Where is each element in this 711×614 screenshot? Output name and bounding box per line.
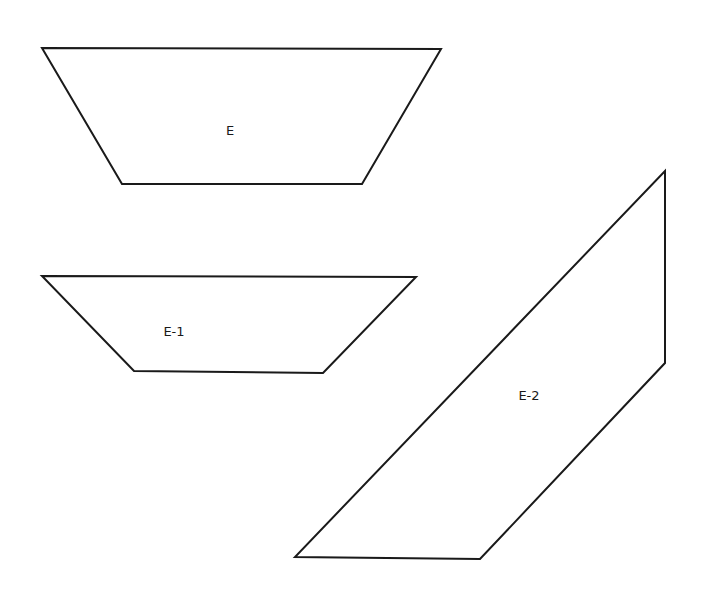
label-E: E xyxy=(226,123,234,138)
shape-E-1: E-1 xyxy=(42,276,416,373)
shape-E: E xyxy=(42,48,441,184)
trapezoid-E-1 xyxy=(42,276,416,373)
label-E-1: E-1 xyxy=(163,324,184,339)
shape-E-2: E-2 xyxy=(295,171,665,559)
parallelogram-E-2 xyxy=(295,171,665,559)
trapezoid-E xyxy=(42,48,441,184)
shapes-diagram: E E-1 E-2 xyxy=(0,0,711,614)
label-E-2: E-2 xyxy=(518,388,539,403)
